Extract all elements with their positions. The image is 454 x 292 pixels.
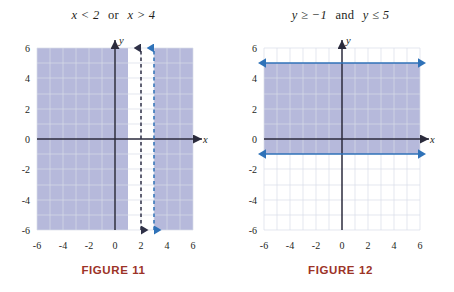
figure-12-title-right: y ≤ 5 xyxy=(363,8,389,22)
y-tick-0: 0 xyxy=(25,134,30,145)
y-tick-neg6: -6 xyxy=(249,225,257,236)
figure-11-title-right: x > 4 xyxy=(127,8,155,22)
y-tick-neg4: -4 xyxy=(22,195,30,206)
x-tick-4: 4 xyxy=(392,240,397,251)
x-tick-2: 2 xyxy=(139,240,144,251)
figure-12-title-connector: and xyxy=(335,8,354,22)
x-tick-neg2: -2 xyxy=(312,240,320,251)
figure-11-svg: x y 6 4 2 0 -2 -4 -6 -6 -4 -2 0 2 4 6 xyxy=(0,30,227,260)
figures-row: x < 2 or x > 4 xyxy=(0,0,454,292)
x-tick-6: 6 xyxy=(191,240,196,251)
y-tick-4: 4 xyxy=(25,73,30,84)
y-tick-neg2: -2 xyxy=(22,164,30,175)
x-tick-2: 2 xyxy=(366,240,371,251)
figure-12-svg: x y 6 4 2 0 -2 -4 -6 -6 -4 -2 0 2 4 6 xyxy=(227,30,454,260)
x-tick-0: 0 xyxy=(340,240,345,251)
y-tick-4: 4 xyxy=(252,73,257,84)
y-tick-6: 6 xyxy=(252,43,257,54)
y-tick-0: 0 xyxy=(252,134,257,145)
y-axis-label: y xyxy=(118,35,124,46)
y-tick-neg6: -6 xyxy=(22,225,30,236)
x-tick-neg4: -4 xyxy=(286,240,294,251)
figure-11-caption: FIGURE 11 xyxy=(0,264,227,276)
x-tick-neg6: -6 xyxy=(33,240,41,251)
x-tick-neg4: -4 xyxy=(59,240,67,251)
figure-11-plot: x y 6 4 2 0 -2 -4 -6 -6 -4 -2 0 2 4 6 xyxy=(0,30,227,260)
figure-12-caption: FIGURE 12 xyxy=(227,264,454,276)
x-tick-neg6: -6 xyxy=(260,240,268,251)
figure-12-plot: x y 6 4 2 0 -2 -4 -6 -6 -4 -2 0 2 4 6 xyxy=(227,30,454,260)
figure-11-title: x < 2 or x > 4 xyxy=(0,8,227,23)
x-axis-label: x xyxy=(202,134,208,145)
figure-11-title-connector: or xyxy=(108,8,119,22)
figure-11-title-left: x < 2 xyxy=(72,8,100,22)
x-axis-label: x xyxy=(429,134,435,145)
figure-panel-12: y ≥ −1 and y ≤ 5 xyxy=(227,0,454,292)
x-tick-0: 0 xyxy=(113,240,118,251)
y-tick-2: 2 xyxy=(252,104,257,115)
y-tick-neg4: -4 xyxy=(249,195,257,206)
y-tick-2: 2 xyxy=(25,104,30,115)
figure-12-title-left: y ≥ −1 xyxy=(292,8,327,22)
figure-12-title: y ≥ −1 and y ≤ 5 xyxy=(227,8,454,23)
y-axis-label: y xyxy=(345,35,351,46)
figure-panel-11: x < 2 or x > 4 xyxy=(0,0,227,292)
x-tick-4: 4 xyxy=(165,240,170,251)
x-tick-6: 6 xyxy=(418,240,423,251)
x-tick-neg2: -2 xyxy=(85,240,93,251)
y-tick-neg2: -2 xyxy=(249,164,257,175)
y-tick-6: 6 xyxy=(25,43,30,54)
